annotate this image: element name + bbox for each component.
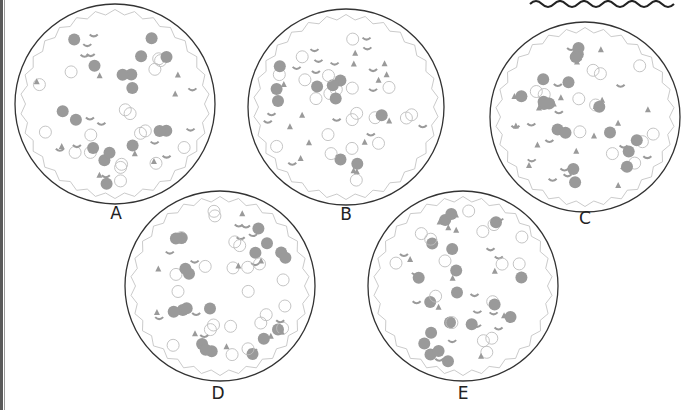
- pizza-label-b: B: [331, 204, 361, 224]
- pizza-a[interactable]: [13, 2, 217, 206]
- wavy-decoration-icon: [528, 0, 678, 12]
- page-border-left-inner: [4, 0, 5, 410]
- pizza-label-c: C: [570, 208, 600, 228]
- pizza-e[interactable]: [366, 189, 560, 383]
- pizza-b[interactable]: [246, 7, 446, 207]
- pizza-label-e: E: [448, 383, 478, 403]
- pizza-d[interactable]: [123, 189, 317, 383]
- pizza-label-d: D: [203, 383, 233, 403]
- pizza-c[interactable]: [488, 20, 682, 214]
- page-border-left: [0, 0, 3, 410]
